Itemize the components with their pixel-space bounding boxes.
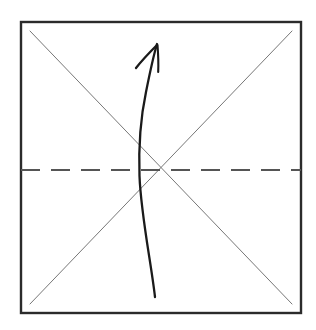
origami-fold-diagram: Origami fold step diagram Square sheet w…	[0, 0, 316, 330]
diagram-canvas	[0, 0, 316, 330]
fold-arrow-head-tail	[158, 45, 159, 72]
